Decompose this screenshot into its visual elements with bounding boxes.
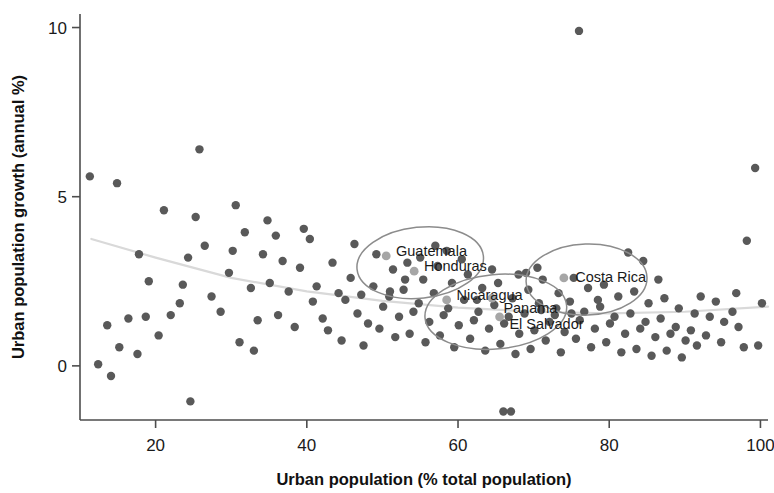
data-point <box>743 236 751 244</box>
y-axis-title: Urban population growth (annual %) <box>9 75 27 359</box>
data-point <box>641 318 649 326</box>
data-point <box>662 346 670 354</box>
data-point <box>216 308 224 316</box>
annotation-label-guatemala: Guatemala <box>396 243 468 259</box>
data-point <box>113 179 121 187</box>
data-point <box>632 345 640 353</box>
data-point <box>636 324 644 332</box>
data-point <box>734 323 742 331</box>
data-point <box>334 289 342 297</box>
data-point <box>415 299 423 307</box>
data-point <box>687 326 695 334</box>
data-point <box>466 335 474 343</box>
data-point <box>720 318 728 326</box>
data-point <box>278 257 286 265</box>
data-point <box>272 231 280 239</box>
data-point <box>176 299 184 307</box>
data-point <box>328 258 336 266</box>
data-point <box>259 250 267 258</box>
data-point <box>372 250 380 258</box>
data-point <box>179 280 187 288</box>
data-point <box>207 292 215 300</box>
data-point <box>602 338 610 346</box>
data-point <box>675 304 683 312</box>
data-point <box>186 397 194 405</box>
data-point <box>229 247 237 255</box>
data-point <box>253 316 261 324</box>
chart-canvas: 051020406080100Urban population (% total… <box>0 0 774 493</box>
data-point <box>296 264 304 272</box>
data-point <box>533 264 541 272</box>
y-tick-label-0: 0 <box>58 357 67 376</box>
data-point <box>672 323 680 331</box>
data-point <box>617 348 625 356</box>
data-point <box>364 319 372 327</box>
data-point <box>405 330 413 338</box>
data-point <box>706 313 714 321</box>
data-point <box>232 201 240 209</box>
data-point <box>644 299 652 307</box>
data-point <box>488 265 496 273</box>
data-point <box>247 284 255 292</box>
data-point <box>690 309 698 317</box>
data-point <box>94 360 102 368</box>
data-point <box>474 308 482 316</box>
data-point <box>386 287 394 295</box>
x-tick-label-80: 80 <box>600 436 619 455</box>
data-point <box>526 345 534 353</box>
data-point <box>591 324 599 332</box>
data-point <box>557 348 565 356</box>
data-point <box>201 242 209 250</box>
data-point <box>309 297 317 305</box>
data-point <box>353 309 361 317</box>
highlighted-point-nicaragua <box>442 295 451 304</box>
scatter-points-group <box>86 27 767 416</box>
data-point <box>654 275 662 283</box>
data-point <box>191 213 199 221</box>
data-point <box>103 321 111 329</box>
data-point <box>485 324 493 332</box>
data-point <box>401 275 409 283</box>
highlighted-point-guatemala <box>382 252 391 261</box>
scatter-plot-figure: 051020406080100Urban population (% total… <box>0 0 774 493</box>
data-point <box>651 333 659 341</box>
data-point <box>621 330 629 338</box>
data-point <box>419 275 427 283</box>
data-point <box>409 308 417 316</box>
annotation-label-panama: Panama <box>503 300 558 316</box>
data-point <box>751 164 759 172</box>
data-point <box>678 353 686 361</box>
data-point <box>728 308 736 316</box>
data-point <box>614 292 622 300</box>
data-point <box>167 311 175 319</box>
data-point <box>732 289 740 297</box>
annotation-labels-group: GuatemalaHondurasNicaraguaPanamaEl Salva… <box>396 243 647 332</box>
data-point <box>300 225 308 233</box>
data-point <box>357 291 365 299</box>
data-point <box>379 302 387 310</box>
data-point <box>324 326 332 334</box>
data-point <box>626 309 634 317</box>
data-point <box>375 324 383 332</box>
data-point <box>133 350 141 358</box>
data-point <box>754 341 762 349</box>
data-point <box>681 336 689 344</box>
data-point <box>395 313 403 321</box>
data-point <box>656 314 664 322</box>
highlighted-point-honduras <box>410 267 419 276</box>
data-point <box>145 277 153 285</box>
data-point <box>235 338 243 346</box>
data-point <box>350 240 358 248</box>
data-point <box>391 333 399 341</box>
data-point <box>702 331 710 339</box>
data-point <box>421 338 429 346</box>
data-point <box>758 299 766 307</box>
data-point <box>225 269 233 277</box>
data-point <box>740 343 748 351</box>
data-point <box>507 407 515 415</box>
data-point <box>318 314 326 322</box>
annotation-label-el-salvador: El Salvador <box>509 316 583 332</box>
data-point <box>359 341 367 349</box>
data-point <box>160 206 168 214</box>
data-point <box>717 338 725 346</box>
